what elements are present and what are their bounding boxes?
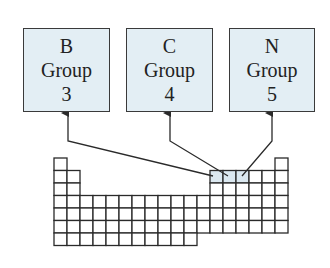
table-cell (249, 171, 262, 184)
table-cell (106, 208, 119, 221)
table-cell (223, 221, 236, 234)
table-cell (145, 221, 158, 234)
table-cell (236, 208, 249, 221)
table-cell (119, 208, 132, 221)
table-cell (54, 183, 67, 196)
table-cell (119, 196, 132, 209)
element-symbol: C (163, 34, 176, 58)
table-cell (184, 208, 197, 221)
table-cell (197, 221, 210, 234)
table-cell (171, 233, 184, 246)
highlighted-cell (236, 171, 249, 184)
table-cell (223, 183, 236, 196)
table-cell (119, 221, 132, 234)
table-cell (262, 196, 275, 209)
table-cell (275, 196, 288, 209)
table-cell (275, 208, 288, 221)
table-cell (223, 208, 236, 221)
table-cell (158, 233, 171, 246)
table-cell (54, 233, 67, 246)
table-cell (184, 196, 197, 209)
table-cell (275, 221, 288, 234)
table-cell (80, 221, 93, 234)
table-cell (249, 221, 262, 234)
table-cell (54, 196, 67, 209)
group-label: Group (246, 58, 297, 82)
group-number: 3 (62, 82, 72, 106)
group-box-boron: B Group 3 (23, 28, 110, 112)
table-cell (158, 221, 171, 234)
table-cell (236, 183, 249, 196)
table-cell (275, 158, 288, 171)
table-cell (132, 196, 145, 209)
table-cell (145, 196, 158, 209)
table-cell (171, 208, 184, 221)
table-cell (67, 221, 80, 234)
arrow-icon (170, 113, 228, 176)
group-label: Group (144, 58, 195, 82)
group-box-carbon: C Group 4 (126, 28, 213, 112)
table-cell (158, 208, 171, 221)
element-symbol: B (60, 34, 73, 58)
table-cell (106, 196, 119, 209)
table-cell (93, 221, 106, 234)
table-cell (223, 196, 236, 209)
table-cell (132, 221, 145, 234)
group-number: 5 (267, 82, 277, 106)
table-cell (249, 208, 262, 221)
table-cell (249, 196, 262, 209)
table-cell (132, 208, 145, 221)
highlighted-cell (223, 171, 236, 184)
table-cell (249, 183, 262, 196)
diagram-canvas: B Group 3 C Group 4 N Group 5 (0, 0, 330, 268)
table-cell (171, 221, 184, 234)
table-cell (210, 208, 223, 221)
table-cell (67, 208, 80, 221)
group-label: Group (41, 58, 92, 82)
periodic-table-grid (54, 158, 288, 246)
table-cell (275, 183, 288, 196)
table-cell (275, 171, 288, 184)
table-cell (80, 208, 93, 221)
table-cell (67, 233, 80, 246)
table-cell (197, 196, 210, 209)
table-cell (67, 196, 80, 209)
table-cell (236, 196, 249, 209)
table-cell (54, 208, 67, 221)
table-cell (262, 208, 275, 221)
table-cell (184, 233, 197, 246)
table-cell (93, 208, 106, 221)
table-cell (67, 183, 80, 196)
arrow-icon (68, 113, 213, 176)
table-cell (80, 196, 93, 209)
table-cell (80, 233, 93, 246)
group-number: 4 (165, 82, 175, 106)
table-cell (197, 208, 210, 221)
table-cell (184, 221, 197, 234)
table-cell (262, 221, 275, 234)
table-cell (145, 208, 158, 221)
table-cell (54, 158, 67, 171)
group-box-nitrogen: N Group 5 (229, 28, 315, 112)
table-cell (262, 171, 275, 184)
table-cell (119, 233, 132, 246)
table-cell (210, 183, 223, 196)
table-cell (236, 221, 249, 234)
table-cell (93, 233, 106, 246)
table-cell (106, 221, 119, 234)
arrow-icon (242, 113, 272, 176)
table-cell (171, 196, 184, 209)
table-cell (210, 196, 223, 209)
table-cell (132, 233, 145, 246)
table-cell (54, 221, 67, 234)
table-cell (158, 196, 171, 209)
table-cell (262, 183, 275, 196)
element-symbol: N (265, 34, 279, 58)
table-cell (106, 233, 119, 246)
table-cell (54, 171, 67, 184)
table-cell (210, 221, 223, 234)
table-cell (67, 171, 80, 184)
connector-arrows (68, 113, 272, 176)
table-cell (93, 196, 106, 209)
table-cell (145, 233, 158, 246)
